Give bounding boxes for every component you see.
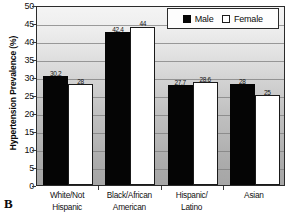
legend-label-male: Male [195,14,214,24]
bar-value-label: 28.6 [189,76,222,83]
bar-female [130,27,155,185]
bar-series-container: 30.22842.44427.728.62825 [37,7,284,185]
plot-area: 30.22842.44427.728.62825 [36,6,285,186]
x-category-label-line: Latino [154,202,230,214]
x-axis-tick-labels: White/NotHispanicBlack/AfricanAmericanHi… [36,190,285,218]
legend-label-female: Female [234,14,263,24]
x-category-label: Asian [216,190,290,202]
bar-female [255,95,280,185]
bar-value-label: 44 [126,20,159,27]
figure-panel-b: Hypertension Prevalence (%) 051015202530… [0,0,290,220]
bar-male [105,32,130,185]
panel-letter: B [4,196,13,212]
bar-value-label: 28 [64,78,97,85]
bar-value-label: 30.2 [39,70,72,77]
x-category-label-line: Asian [216,190,290,202]
bar-value-label: 28 [226,78,259,85]
bar-male [168,85,193,185]
legend-item-female: Female [222,14,262,24]
bar-male [230,84,255,185]
bar-male [43,76,68,185]
y-axis-tick-labels: 05101520253035404550 [12,0,34,220]
legend: Male Female [167,8,279,29]
bar-female [68,84,93,185]
legend-swatch-female-icon [222,15,230,23]
bar-female [193,82,218,185]
legend-swatch-male-icon [183,15,191,23]
bar-value-label: 25 [251,89,284,96]
x-axis [36,186,285,187]
legend-item-male: Male [183,14,213,24]
